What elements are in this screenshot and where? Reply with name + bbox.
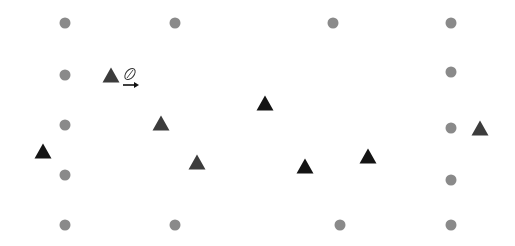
defender-circle xyxy=(60,220,71,231)
defender-circle xyxy=(446,220,457,231)
defender-circle xyxy=(446,67,457,78)
defender-circle xyxy=(446,123,457,134)
defender-circle xyxy=(446,18,457,29)
defender-circle xyxy=(170,220,181,231)
defender-circle xyxy=(335,220,346,231)
defender-circle xyxy=(170,18,181,29)
play-diagram xyxy=(0,0,515,246)
defender-circle xyxy=(60,120,71,131)
defender-circle xyxy=(60,70,71,81)
defender-circle xyxy=(446,175,457,186)
defender-circle xyxy=(60,170,71,181)
defender-circle xyxy=(60,18,71,29)
diagram-background xyxy=(0,0,515,246)
defender-circle xyxy=(328,18,339,29)
